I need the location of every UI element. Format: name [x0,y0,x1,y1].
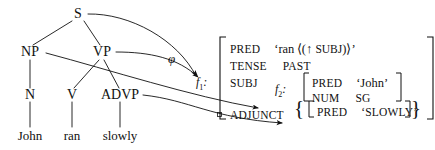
fs-row-adjunct: ADJUNCT [230,106,284,122]
fs-value-adjunct-pred: ‘SLOWLY’ [361,106,417,118]
fs-attr-tense: TENSE [230,60,267,72]
fs-attr-adjunct: ADJUNCT [230,109,284,121]
f1-label: f1: [196,72,207,92]
phi-arrow-vp-to-f1 [116,52,198,77]
fs-attr-subj: SUBJ [230,77,258,89]
subj-right-bracket [395,72,403,102]
fs-attr-pred: PRED [230,43,260,55]
f1-label-colon: : [203,75,207,89]
fs-value-subj-pred: ‘John’ [356,76,388,90]
tree-node-s: S [74,7,82,21]
fs-row-tense: TENSE PAST [230,57,311,73]
tree-node-vp: VP [93,45,111,59]
fs-attr-adjunct-pred: PRED [317,106,347,118]
outer-left-bracket [218,36,228,120]
outer-right-bracket [425,36,435,120]
fs-value-pred: ‘ran ⟨(↑ SUBJ)⟩’ [274,42,355,56]
f2-label-colon: : [282,82,286,96]
tree-edge-vp-advp [104,60,119,88]
tree-node-v: V [67,88,77,102]
tree-leaf-slowly: slowly [103,129,138,142]
adjunct-set-close-brace: } [411,98,421,119]
tree-leaf-ran: ran [64,129,81,142]
fs-value-tense: PAST [283,60,311,72]
lfg-diagram: S NP VP N V ADVP John ran slowly φ f1: P… [0,0,435,150]
fs-row-subj: SUBJ [230,74,258,90]
fs-row-subj-pred: PRED ‘John’ [312,74,388,90]
f2-label: f2: [275,79,286,99]
fs-row-pred: PRED ‘ran ⟨(↑ SUBJ)⟩’ [230,40,356,56]
tree-node-n: N [25,88,35,102]
pred-subj: SUBJ [315,43,342,55]
adjunct-left-bracket [307,100,315,118]
tree-leaf-john: John [18,129,43,142]
pred-word: ran [278,42,294,56]
tree-node-advp: ADVP [101,88,139,102]
tree-node-np: NP [21,45,39,59]
tree-edge-s-vp [84,21,100,45]
phi-label: φ [168,51,175,67]
fs-row-adjunct-pred: PRED ‘SLOWLY’ [317,103,417,119]
fs-attr-subj-pred: PRED [312,77,342,89]
tree-edge-s-np [33,21,72,45]
adjunct-set-open-brace: { [294,98,304,119]
